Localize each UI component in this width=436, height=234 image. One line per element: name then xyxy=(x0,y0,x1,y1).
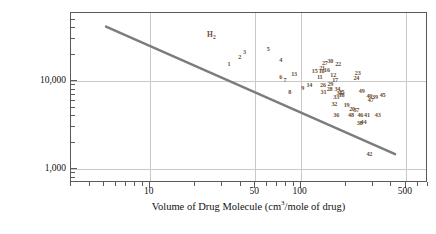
annotation-subscript: 2 xyxy=(213,34,216,40)
x-axis-tick-minor xyxy=(134,182,135,186)
data-point-label: 45 xyxy=(380,91,386,98)
y-axis-tick-minor xyxy=(70,94,75,95)
y-axis-tick-minor xyxy=(70,38,75,39)
data-point-label: 22 xyxy=(335,59,341,66)
data-point-label: 24 xyxy=(353,74,359,81)
x-axis-tick-label: 50 xyxy=(249,186,259,196)
x-axis-tick-minor xyxy=(221,182,222,186)
data-point-label: 7 xyxy=(284,75,287,82)
x-axis-tick-minor xyxy=(285,182,286,186)
data-point-label: 6 xyxy=(279,73,282,80)
y-axis-tick-minor xyxy=(70,19,75,20)
data-point-label: 26 xyxy=(320,81,326,88)
data-point-label: 49 xyxy=(359,86,365,93)
y-axis-tick-minor xyxy=(70,115,75,116)
x-axis-tick-minor xyxy=(103,182,104,186)
x-axis-tick-minor xyxy=(372,182,373,186)
data-point-label: 29 xyxy=(327,80,333,87)
data-point-label: 15 xyxy=(312,66,318,73)
data-point-label: 5 xyxy=(267,44,270,51)
annotation-h2: H2 xyxy=(207,30,216,41)
x-axis-tick-minor xyxy=(89,182,90,186)
x-axis-tick-minor xyxy=(70,182,71,186)
data-point-label: 11 xyxy=(317,73,322,80)
data-point-label: 35 xyxy=(337,89,343,96)
x-axis-tick-label: 500 xyxy=(398,186,412,196)
y-axis-tick-minor xyxy=(70,84,75,85)
data-point-label: 3 xyxy=(243,48,246,55)
data-point-label: 1 xyxy=(228,59,231,66)
y-axis-tick-minor xyxy=(70,142,75,143)
y-axis-tick-major xyxy=(70,168,77,169)
y-axis-tick-minor xyxy=(70,89,75,90)
data-point-label: 9 xyxy=(301,83,304,90)
data-point-label: 44 xyxy=(360,117,366,124)
y-axis-tick-minor xyxy=(70,27,75,28)
x-axis-tick-label: 100 xyxy=(292,186,306,196)
y-axis-tick-minor xyxy=(70,100,75,101)
data-point-label: 30 xyxy=(327,57,333,64)
data-point-label: 46 xyxy=(357,110,363,117)
x-axis-tick-minor xyxy=(125,182,126,186)
x-axis-tick-minor xyxy=(345,182,346,186)
y-axis-tick-minor xyxy=(70,126,75,127)
x-axis-tick-minor xyxy=(142,182,143,186)
y-axis-tick-minor xyxy=(70,172,75,173)
data-point-label: 8 xyxy=(288,87,291,94)
y-axis-tick-major xyxy=(70,80,77,81)
data-point-label: 42 xyxy=(366,149,372,156)
x-axis-tick-minor xyxy=(194,182,195,186)
data-point-label: 48 xyxy=(348,110,354,117)
x-axis-tick-label: 10 xyxy=(144,186,154,196)
y-axis-tick-minor xyxy=(70,107,75,108)
x-axis-tick-minor xyxy=(115,182,116,186)
y-axis-tick-minor xyxy=(70,54,75,55)
data-point-label: 13 xyxy=(291,70,297,77)
y-axis-tick-minor xyxy=(70,12,75,13)
x-axis-title-tail: /mole of drug) xyxy=(285,201,346,212)
x-axis-tick-minor xyxy=(390,182,391,186)
data-point-label: 32 xyxy=(331,99,337,106)
x-axis-title-main: Volume of Drug Molecule (cm xyxy=(152,201,281,212)
data-point-label: 36 xyxy=(333,110,339,117)
data-point-label: 47 xyxy=(368,96,374,103)
x-axis-tick-minor xyxy=(427,182,428,186)
y-axis-tick-minor xyxy=(70,177,75,178)
x-axis-tick-minor xyxy=(240,182,241,186)
x-axis-tick-minor xyxy=(266,182,267,186)
data-point-label: 43 xyxy=(375,110,381,117)
x-axis-title: Volume of Drug Molecule (cm3/mole of dru… xyxy=(70,199,427,212)
y-axis-tick-label: 1,000 xyxy=(22,163,66,173)
data-point-label: 14 xyxy=(306,80,312,87)
data-point-label: 2 xyxy=(238,52,241,59)
y-axis-tick-label: 10,000 xyxy=(22,75,66,85)
x-axis-tick-minor xyxy=(417,182,418,186)
chart-figure: Volume of Drug Molecule (cm3/mole of dru… xyxy=(0,0,436,234)
data-point-label: 31 xyxy=(321,88,327,95)
x-axis-tick-minor xyxy=(276,182,277,186)
data-point-label: 4 xyxy=(279,55,282,62)
